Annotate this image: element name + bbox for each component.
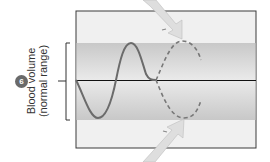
step-number-badge: 6	[15, 75, 28, 88]
y-axis-label-line2: (normal range)	[37, 45, 49, 117]
normal-range-band-upper	[77, 43, 256, 80]
y-axis-label: Blood volume (normal range)	[25, 45, 49, 117]
